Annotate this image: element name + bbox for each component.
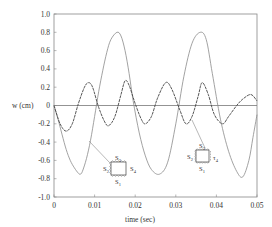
x-tick-label: 0 <box>52 201 56 210</box>
x-tick-label: 0.03 <box>169 201 182 210</box>
inset-diagram-2: S3 S2 τ4 S1 <box>187 142 219 174</box>
leader-line-1 <box>89 141 110 163</box>
inset-diagram-1: S3 S2 S4 S1 <box>103 154 137 187</box>
svg-text:S3: S3 <box>199 142 206 151</box>
svg-text:S2: S2 <box>103 165 109 174</box>
x-tick-label: 0.05 <box>250 201 263 210</box>
svg-text:S1: S1 <box>199 165 205 174</box>
y-tick-label: -0.6 <box>38 156 50 165</box>
y-tick-label: 0.2 <box>41 83 51 92</box>
y-tick-label: -0.2 <box>38 119 50 128</box>
y-tick-label: 1.0 <box>41 10 51 19</box>
x-axis-title: time (sec) <box>125 215 155 224</box>
x-tick-label: 0.01 <box>88 201 101 210</box>
y-axis-title: w (cm) <box>12 101 34 110</box>
y-tick-label: 0 <box>46 101 50 110</box>
y-tick-label: 0.4 <box>41 64 51 73</box>
y-tick-label: 0.6 <box>41 46 51 55</box>
plate-square <box>111 162 126 175</box>
svg-text:S2: S2 <box>187 153 193 162</box>
plate-square <box>196 150 209 162</box>
y-tick-label: 0.8 <box>41 28 51 37</box>
x-tick-label: 0.02 <box>129 201 142 210</box>
svg-text:τ4: τ4 <box>213 154 219 163</box>
svg-text:S1: S1 <box>115 178 121 187</box>
svg-text:S4: S4 <box>130 165 137 174</box>
y-tick-label: -0.8 <box>38 174 50 183</box>
x-tick-label: 0.04 <box>210 201 223 210</box>
y-tick-label: -1.0 <box>38 193 50 202</box>
y-tick-label: -0.4 <box>38 138 50 147</box>
chart: 1.00.80.60.40.20-0.2-0.4-0.6-0.8-1.0 00.… <box>0 0 272 227</box>
